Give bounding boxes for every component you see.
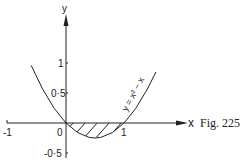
y-tick-label-neg-0-5: -0·5 xyxy=(44,148,62,159)
figure-canvas: y x 1 0·5 -0·5 -1 0 1 y = x² − x Fig. 22… xyxy=(0,0,241,163)
y-tick-label-1: 1 xyxy=(58,58,64,69)
curve-label: y = x² − x xyxy=(120,75,146,113)
x-axis-arrow-icon xyxy=(176,121,188,126)
y-tick-label-0-5: 0·5 xyxy=(51,88,66,99)
origin-label: 0 xyxy=(57,127,63,138)
x-tick-label-neg-1: -1 xyxy=(3,127,12,138)
figure-caption: Fig. 225 xyxy=(200,116,240,130)
y-axis-label: y xyxy=(62,3,67,14)
y-axis-arrow-icon xyxy=(64,14,69,26)
x-tick-label-1: 1 xyxy=(121,127,127,138)
x-axis-label: x xyxy=(188,116,194,130)
